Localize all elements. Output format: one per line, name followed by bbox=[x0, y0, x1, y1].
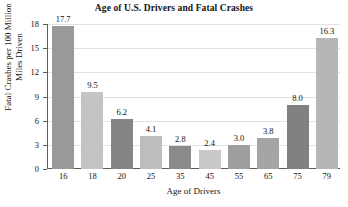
bar-value-label: 17.7 bbox=[47, 15, 79, 24]
x-axis-tick-label: 16 bbox=[47, 172, 79, 181]
bar-value-label: 2.8 bbox=[164, 135, 196, 144]
bar bbox=[111, 119, 133, 169]
y-axis-tick-label: 18 bbox=[13, 20, 39, 29]
x-axis-tick-label: 18 bbox=[76, 172, 108, 181]
bar bbox=[228, 145, 250, 169]
x-axis-tick-label: 20 bbox=[106, 172, 138, 181]
bar-value-label: 8.0 bbox=[282, 94, 314, 103]
x-axis-title: Age of Drivers bbox=[47, 186, 340, 196]
bar bbox=[316, 38, 338, 169]
y-axis-tick-label: 3 bbox=[13, 141, 39, 150]
bar bbox=[81, 92, 103, 169]
y-axis-tick-label: 0 bbox=[13, 165, 39, 174]
y-axis-tick-label: 15 bbox=[13, 44, 39, 53]
x-axis-tick-label: 35 bbox=[164, 172, 196, 181]
bar-value-label: 6.2 bbox=[106, 108, 138, 117]
bar bbox=[169, 146, 191, 169]
x-axis-tick-label: 65 bbox=[252, 172, 284, 181]
bar-value-label: 4.1 bbox=[135, 125, 167, 134]
bar bbox=[287, 105, 309, 169]
bar-value-label: 3.0 bbox=[223, 134, 255, 143]
y-axis-tick-label: 12 bbox=[13, 68, 39, 77]
bar-value-label: 2.4 bbox=[194, 139, 226, 148]
x-axis-tick-label: 75 bbox=[282, 172, 314, 181]
y-axis-tick-label: 9 bbox=[13, 93, 39, 102]
bar bbox=[257, 138, 279, 169]
bar-value-label: 3.8 bbox=[252, 127, 284, 136]
bar-value-label: 9.5 bbox=[76, 81, 108, 90]
y-axis-tick-label: 6 bbox=[13, 117, 39, 126]
bar bbox=[199, 150, 221, 169]
bar-value-label: 16.3 bbox=[311, 27, 343, 36]
x-axis-tick-label: 45 bbox=[194, 172, 226, 181]
x-axis-tick-label: 55 bbox=[223, 172, 255, 181]
x-axis-tick-label: 25 bbox=[135, 172, 167, 181]
chart-figure: Age of U.S. Drivers and Fatal Crashes Fa… bbox=[0, 0, 348, 207]
bar bbox=[140, 136, 162, 169]
bar bbox=[52, 26, 74, 169]
y-axis-tick-mark bbox=[43, 169, 47, 170]
chart-title: Age of U.S. Drivers and Fatal Crashes bbox=[0, 3, 348, 13]
x-axis-tick-label: 79 bbox=[311, 172, 343, 181]
